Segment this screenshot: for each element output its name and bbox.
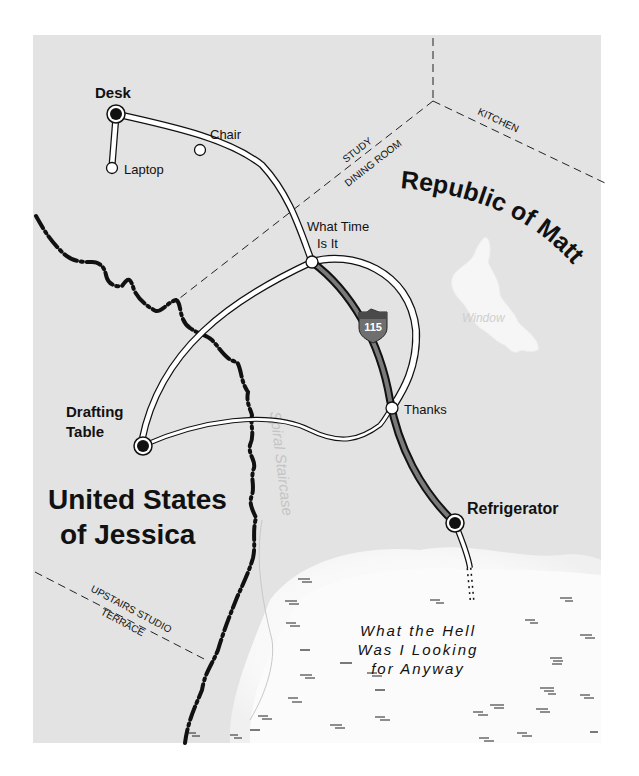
city-drafting-table-label-1: Drafting bbox=[66, 403, 124, 420]
country-united-states-label-2: of Jessica bbox=[60, 519, 196, 550]
city-what-time-marker bbox=[306, 256, 318, 268]
swamp-label-3: for Anyway bbox=[371, 660, 465, 677]
city-laptop-label: Laptop bbox=[124, 162, 164, 177]
city-laptop-marker bbox=[107, 163, 118, 174]
city-refrigerator-marker bbox=[446, 514, 464, 532]
city-chair-marker bbox=[195, 145, 206, 156]
city-thanks-marker bbox=[386, 402, 398, 414]
city-what-time-label-2: Is It bbox=[317, 236, 338, 251]
city-chair-label: Chair bbox=[210, 127, 242, 142]
map-canvas: Window STUDY DINING ROOM KITCHEN UPSTAIR… bbox=[0, 0, 639, 776]
city-desk-marker bbox=[107, 105, 125, 123]
swamp-label-2: Was I Looking bbox=[358, 641, 479, 658]
swamp-label-1: What the Hell bbox=[360, 622, 476, 639]
city-refrigerator-label: Refrigerator bbox=[467, 500, 559, 517]
city-what-time-label-1: What Time bbox=[307, 219, 369, 234]
city-drafting-table-label-2: Table bbox=[66, 423, 104, 440]
city-thanks-label: Thanks bbox=[404, 402, 447, 417]
window-label: Window bbox=[462, 311, 506, 325]
interstate-shield-number: 115 bbox=[364, 321, 382, 333]
country-united-states-label-1: United States bbox=[48, 484, 227, 515]
city-desk-label: Desk bbox=[95, 84, 132, 101]
city-drafting-table-marker bbox=[134, 437, 152, 455]
